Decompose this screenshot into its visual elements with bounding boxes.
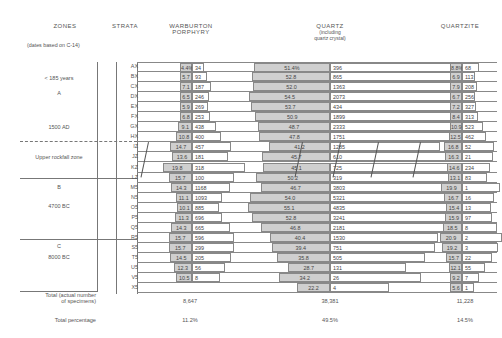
strata-label: FX (122, 113, 138, 119)
quartzite-count-cell: 1 (462, 283, 474, 292)
quartz-pct-bar: 35.8 (277, 253, 330, 262)
quartz-pct-bar: 52.8 (252, 213, 330, 222)
strata-label: U5 (122, 264, 138, 270)
warburton-count-cell: 318 (192, 163, 245, 172)
warburton-count-cell: 269 (192, 102, 208, 111)
table-row: 6.825350.918998.4313 (137, 112, 497, 122)
zone-a-label-1: < 185 years (4, 75, 114, 81)
quartzite-pct-bar: 13.1 (448, 173, 462, 182)
warburton-count-cell: 596 (192, 233, 234, 242)
quartzite-pct-bar: 18.5 (443, 223, 462, 232)
strata-label: GX (122, 123, 138, 129)
warburton-count-cell: 1168 (192, 183, 230, 192)
quartzite-count-cell: 21 (462, 152, 493, 161)
warburton-count-cell: 885 (192, 203, 219, 212)
zone-c-label-1: C (4, 243, 114, 249)
quartz-count-cell: 1285 (330, 142, 440, 151)
warburton-count-cell: 438 (192, 122, 216, 131)
warburton-count-cell: 187 (192, 82, 211, 91)
quartz-pct-bar: 51.4% (254, 63, 330, 72)
zone-divider-b (20, 178, 137, 179)
table-row: 10.188555.1483515.413 (137, 203, 497, 213)
warburton-count-cell: 56 (192, 263, 225, 272)
quartzite-pct-bar: 16.8 (444, 142, 462, 151)
strata-label: N5 (122, 194, 138, 200)
strata-label: EX (122, 103, 138, 109)
quartzite-count-cell: 327 (462, 102, 476, 111)
zone-rockfall-label: Upper rockfall zone (4, 154, 114, 160)
zone-c-label-2: 8000 BC (4, 254, 114, 260)
quartz-count-cell: 131 (330, 263, 406, 272)
strata-label: BX (122, 73, 138, 79)
header-strata: STRATA (100, 23, 150, 29)
quartzite-count-cell: 3 (462, 243, 498, 252)
quartz-pct-bar: 55.1 (248, 203, 330, 212)
zone-a-label-2: A (4, 90, 114, 96)
header-quartz-line3: quartz crystal) (290, 35, 370, 41)
warburton-pct-bar: 14.3 (171, 183, 192, 192)
quartzite-pct-bar: 14.6 (447, 163, 462, 172)
table-row: 4.4%3451.4%3968.8%68 (137, 62, 497, 72)
warburton-pct-bar: 15.7 (169, 173, 192, 182)
quartzite-count-cell: 13 (462, 203, 491, 212)
quartz-count-cell: 751 (330, 243, 435, 252)
warburton-pct-bar: 10.1 (177, 203, 192, 212)
strata-label: R5 (122, 234, 138, 240)
warburton-count-cell: 1093 (192, 193, 222, 202)
warburton-pct-bar: 14.3 (171, 223, 192, 232)
quartzite-count-cell: 256 (462, 92, 475, 101)
table-row: 14.745741.2128516.852 (137, 142, 497, 152)
warburton-pct-bar: 4.4% (180, 63, 192, 72)
warburton-pct-bar: 19.8 (163, 163, 192, 172)
warburton-pct-bar: 14.5 (170, 253, 192, 262)
totals-count-label-line2: of specimens) (0, 298, 96, 304)
table-row: 9.143848.7233310.9523 (137, 122, 497, 132)
strata-label: DX (122, 93, 138, 99)
header-quartz: QUARTZ (including quartz crystal) (290, 23, 370, 41)
totals-count-label: Total (actual number of specimens) (0, 292, 96, 304)
warburton-count-cell: 665 (192, 223, 230, 232)
warburton-pct-bar: 12.3 (174, 263, 192, 272)
header-quartzite: QUARTZITE (430, 23, 490, 29)
quartz-pct-bar: 50.2 (256, 173, 330, 182)
quartzite-count-cell: 55 (462, 263, 485, 272)
quartz-pct-bar: 39.4 (272, 243, 330, 252)
warburton-count-cell: 400 (192, 132, 221, 141)
warburton-pct-bar: 11.1 (176, 193, 192, 202)
warburton-pct-bar: 6.5 (180, 92, 192, 101)
strata-label: CX (122, 83, 138, 89)
strata-label: JZ (122, 153, 138, 159)
strata-label: HX (122, 133, 138, 139)
quartzite-count-cell: 462 (462, 132, 486, 141)
zone-b-label-2: 4700 BC (4, 203, 114, 209)
strata-label: KZ (122, 164, 138, 170)
table-row: 11.369652.8324115.997 (137, 213, 497, 223)
quartz-count-cell: 1363 (330, 82, 469, 91)
quartzite-total-count: 11,228 (440, 298, 490, 304)
warburton-pct-bar: 11.3 (175, 213, 192, 222)
quartz-count-cell: 3803 (330, 183, 454, 192)
warburton-pct-bar: 15.7 (169, 233, 192, 242)
quartzite-pct-bar: 12.5 (449, 132, 462, 141)
quartzite-total-pct: 14.5% (440, 317, 490, 323)
quartz-pct-bar: 22.2 (297, 283, 330, 292)
table-row: 14.366546.8218118.58 (137, 223, 497, 233)
warburton-pct-bar: 5.9 (180, 102, 192, 111)
table-row: 10.5834.2269.27 (137, 273, 497, 283)
warburton-count-cell: 100 (192, 173, 234, 182)
quartzite-count-cell: 113 (462, 72, 475, 81)
quartzite-pct-bar: 8.8% (450, 63, 462, 72)
quartz-pct-bar: 46.8 (261, 223, 330, 232)
quartzite-pct-bar: 16.7 (444, 193, 462, 202)
strata-label: X5 (122, 284, 138, 290)
table-row: 14.3116846.7380319.91 (137, 183, 497, 193)
strata-label: T5 (122, 254, 138, 260)
quartzite-pct-bar: 12.1 (449, 263, 462, 272)
quartz-pct-bar: 54.0 (250, 193, 330, 202)
quartzite-pct-bar: 6.7 (450, 92, 462, 101)
quartzite-count-cell: 208 (462, 82, 477, 91)
quartz-total-count: 38,381 (305, 298, 355, 304)
quartzite-pct-bar: 7.9 (450, 82, 462, 91)
table-row: 13.618145.761016.321 (137, 152, 497, 162)
quartz-pct-bar: 45.7 (262, 152, 330, 161)
